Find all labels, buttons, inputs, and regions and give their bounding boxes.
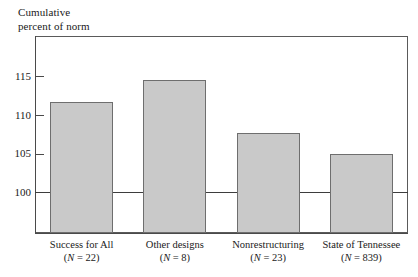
y-axis-title: Cumulative percent of norm [18,6,90,33]
y-axis-tick-label-text: 105 [5,148,31,159]
category-n-value: (N = 23) [215,251,322,264]
y-axis-tick-label: 110 [0,110,31,121]
y-axis-tick [35,76,44,77]
y-axis-title-line-1: Cumulative [18,6,90,20]
y-axis-spine [35,36,36,234]
x-axis-category-label: Success for All(N = 22) [28,238,135,264]
category-name: Success for All [28,238,135,251]
reference-line-segment [204,192,238,193]
y-axis-tick-label-text: 100 [5,187,31,198]
reference-line-segment [111,192,145,193]
category-n-value: (N = 839) [308,251,415,264]
x-axis-category-label: Nonrestructuring(N = 23) [215,238,322,264]
y-axis-title-line-2: percent of norm [18,20,90,34]
x-axis-category-label: State of Tennessee(N = 839) [308,238,415,264]
category-name: Other designs [121,238,228,251]
y-axis-tick-label: 100 [0,187,31,198]
chart-figure: Cumulative percent of norm 100105110115 … [0,0,418,277]
bar [143,80,206,233]
y-axis-tick-label-text: 115 [5,71,31,82]
y-axis-tick [35,115,44,116]
bar [237,133,300,233]
y-axis-tick-label: 105 [0,148,31,159]
category-name: Nonrestructuring [215,238,322,251]
reference-line-segment [298,192,332,193]
bar [330,154,393,233]
x-axis-category-label: Other designs(N = 8) [121,238,228,264]
category-name: State of Tennessee [308,238,415,251]
reference-line-segment [391,192,408,193]
y-axis-tick [35,154,44,155]
bar [50,102,113,233]
category-n-value: (N = 8) [121,251,228,264]
y-axis-tick-label-text: 110 [5,110,31,121]
x-axis-baseline [35,233,408,234]
category-n-value: (N = 22) [28,251,135,264]
y-axis-tick-label: 115 [0,71,31,82]
